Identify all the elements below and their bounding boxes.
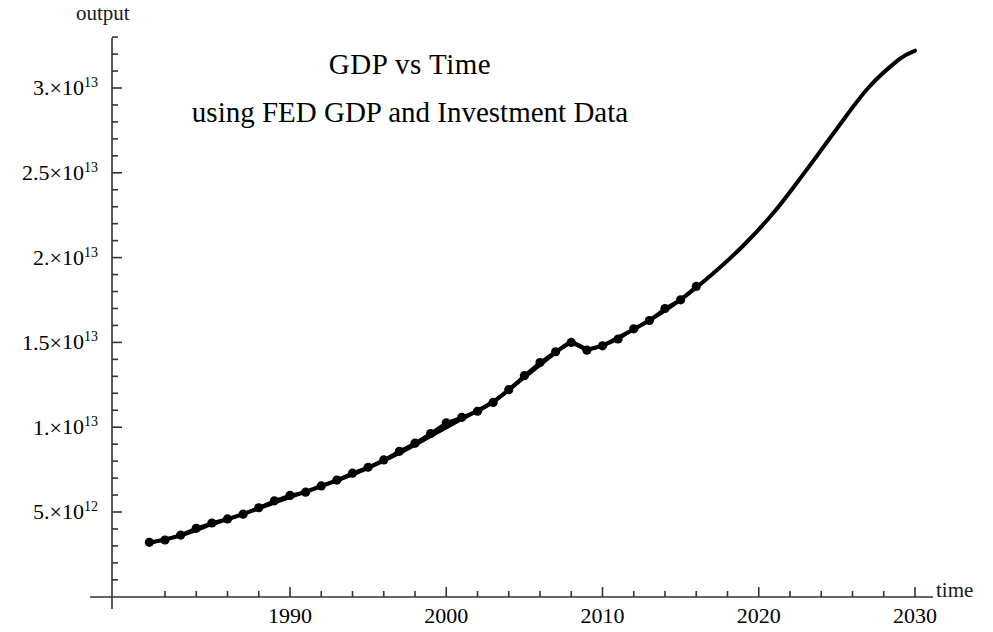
y-tick-label: 1.×1013 bbox=[0, 414, 98, 440]
y-tick-label: 2.5×1013 bbox=[0, 160, 98, 186]
plot-canvas bbox=[0, 0, 993, 632]
x-tick-label: 2030 bbox=[893, 603, 937, 629]
x-tick-label: 2010 bbox=[581, 603, 625, 629]
y-axis-label: output bbox=[76, 1, 130, 26]
chart-figure: output time GDP vs Time using FED GDP an… bbox=[0, 0, 993, 632]
x-tick-label: 1990 bbox=[268, 603, 312, 629]
data-points bbox=[145, 282, 701, 547]
y-tick-label: 1.5×1013 bbox=[0, 329, 98, 355]
chart-subtitle: using FED GDP and Investment Data bbox=[0, 96, 820, 129]
x-tick-label: 2020 bbox=[737, 603, 781, 629]
x-axis-label: time bbox=[936, 578, 973, 603]
chart-title: GDP vs Time bbox=[0, 48, 820, 81]
y-tick-label: 3.×1013 bbox=[0, 75, 98, 101]
x-tick-label: 2000 bbox=[424, 603, 468, 629]
y-tick-label: 2.×1013 bbox=[0, 244, 98, 270]
y-tick-label: 5.×1012 bbox=[0, 499, 98, 525]
